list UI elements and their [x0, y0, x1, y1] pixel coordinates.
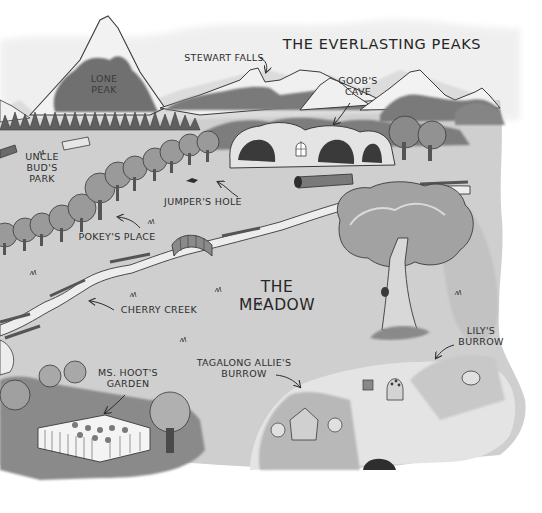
- place-label-stewart-falls: Stewart Falls: [178, 53, 270, 64]
- place-label-tagalong-allies-burrow: Tagalong Allie's Burrow: [188, 358, 300, 380]
- place-label-goobs-cave: Goob's Cave: [336, 76, 380, 98]
- place-label-jumpers-hole: Jumper's Hole: [162, 197, 244, 208]
- place-label-uncle-buds-park: Uncle Bud's Park: [20, 152, 64, 185]
- region-label-meadow: The Meadow: [222, 279, 332, 315]
- meadow-map-illustration: [0, 0, 542, 513]
- place-label-pokeys-place: Pokey's Place: [76, 232, 158, 243]
- map-title: The Everlasting Peaks: [282, 36, 482, 53]
- place-label-lone-peak: Lone Peak: [84, 74, 124, 96]
- place-label-cherry-creek: Cherry Creek: [118, 305, 200, 316]
- place-label-lilys-burrow: Lily's Burrow: [456, 326, 506, 348]
- place-label-ms-hoots-garden: Ms. Hoot's Garden: [96, 368, 160, 390]
